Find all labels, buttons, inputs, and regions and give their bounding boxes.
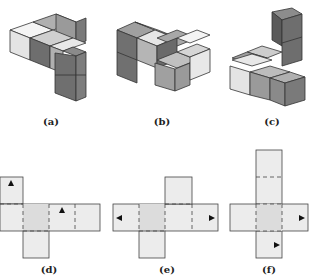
figure-canvas (0, 0, 315, 277)
label-b: (b) (147, 116, 177, 127)
label-f: (f) (254, 264, 284, 275)
label-e: (e) (152, 264, 182, 275)
assembly-c (230, 8, 305, 106)
net-e (113, 177, 218, 258)
label-c: (c) (257, 116, 287, 127)
label-d: (d) (34, 264, 64, 275)
assembly-b (117, 22, 210, 91)
net-d (0, 177, 100, 258)
assembly-a (10, 14, 86, 101)
label-a: (a) (36, 116, 66, 127)
net-f (230, 150, 308, 258)
